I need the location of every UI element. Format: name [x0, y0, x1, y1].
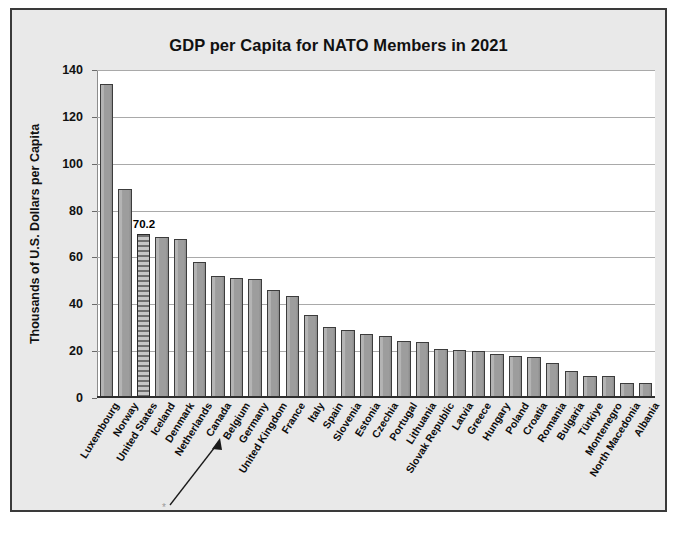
y-axis-tick — [92, 164, 97, 165]
gridline — [97, 117, 655, 118]
bar — [453, 350, 466, 398]
y-axis-tick-label: 140 — [43, 63, 83, 77]
bar — [341, 330, 354, 398]
bar — [509, 356, 522, 398]
bar — [267, 290, 280, 398]
gridline — [97, 164, 655, 165]
y-axis-tick-label: 80 — [43, 204, 83, 218]
y-axis-tick — [92, 211, 97, 212]
bar — [546, 363, 559, 398]
bar — [565, 371, 578, 398]
gridline — [97, 211, 655, 212]
y-axis-tick — [92, 351, 97, 352]
chart-title: GDP per Capita for NATO Members in 2021 — [12, 36, 665, 55]
bar — [397, 341, 410, 398]
y-axis-tick — [92, 398, 97, 399]
category-axis-line — [97, 396, 655, 398]
x-axis-tick-labels: LuxembourgNorwayUnited StatesIcelandDenm… — [97, 400, 655, 510]
y-axis-title: Thousands of U.S. Dollars per Capita — [26, 70, 44, 398]
bar — [379, 336, 392, 398]
y-axis-tick — [92, 257, 97, 258]
bar — [360, 334, 373, 398]
bar — [602, 376, 615, 398]
bar — [527, 357, 540, 398]
bar — [137, 234, 150, 398]
plot-area: 70.2 — [97, 70, 655, 398]
bar — [155, 237, 168, 398]
bar — [472, 351, 485, 398]
bar — [211, 276, 224, 398]
bar — [100, 84, 113, 398]
bar — [416, 342, 429, 398]
value-axis-line — [97, 70, 98, 398]
bar — [230, 278, 243, 398]
y-axis-tick-label: 0 — [43, 391, 83, 405]
bar-value-label: 70.2 — [133, 218, 155, 230]
y-axis-tick-label: 100 — [43, 157, 83, 171]
bar — [304, 315, 317, 398]
bar — [118, 189, 131, 398]
y-axis-tick-label: 20 — [43, 344, 83, 358]
y-axis-tick-label: 40 — [43, 297, 83, 311]
y-axis-title-text: Thousands of U.S. Dollars per Capita — [28, 124, 42, 344]
bar — [286, 296, 299, 398]
y-axis-tick-label: 120 — [43, 110, 83, 124]
y-axis-tick — [92, 70, 97, 71]
bar — [323, 327, 336, 398]
bar — [193, 262, 206, 398]
bar — [583, 376, 596, 398]
gridline — [97, 70, 655, 71]
y-axis-tick — [92, 304, 97, 305]
bar — [248, 279, 261, 398]
y-axis-tick-label: 60 — [43, 250, 83, 264]
bar — [174, 239, 187, 398]
bar — [490, 354, 503, 398]
annotation-marker: * — [162, 502, 166, 513]
bar — [434, 349, 447, 398]
y-axis-tick — [92, 117, 97, 118]
chart-frame: GDP per Capita for NATO Members in 2021 … — [10, 8, 667, 512]
